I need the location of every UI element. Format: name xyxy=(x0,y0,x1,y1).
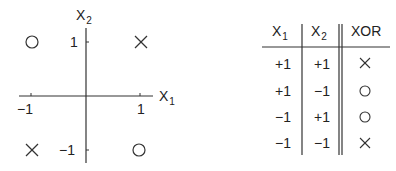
table-header-xor: XOR xyxy=(351,24,381,38)
cross-marker-icon xyxy=(360,138,370,148)
table-cell-x1: +1 xyxy=(265,84,301,98)
table-cell-x2: −1 xyxy=(304,84,340,98)
table-cell-x1: +1 xyxy=(265,57,301,71)
circle-marker-icon xyxy=(133,144,145,156)
table-cell-x2: +1 xyxy=(304,110,340,124)
y-tick-label-neg1: −1 xyxy=(59,143,75,157)
cross-marker-icon xyxy=(135,36,147,48)
table-header-x2: X2 xyxy=(311,24,327,40)
table-cell-x2: +1 xyxy=(304,57,340,71)
x-tick-label-1: 1 xyxy=(137,102,145,116)
y-axis-label: X2 xyxy=(76,8,92,24)
cross-marker-icon xyxy=(360,58,370,68)
circle-marker-icon xyxy=(360,86,370,96)
y-tick-label-1: 1 xyxy=(70,35,78,49)
x-axis-label: X1 xyxy=(159,89,175,105)
table-cell-x2: −1 xyxy=(304,136,340,150)
cross-marker-icon xyxy=(26,144,38,156)
table-cell-x1: −1 xyxy=(265,136,301,150)
circle-marker-icon xyxy=(360,112,370,122)
table-header-x1: X1 xyxy=(272,24,288,40)
x-tick-label-neg1: −1 xyxy=(17,102,33,116)
table-cell-x1: −1 xyxy=(265,110,301,124)
circle-marker-icon xyxy=(26,36,38,48)
